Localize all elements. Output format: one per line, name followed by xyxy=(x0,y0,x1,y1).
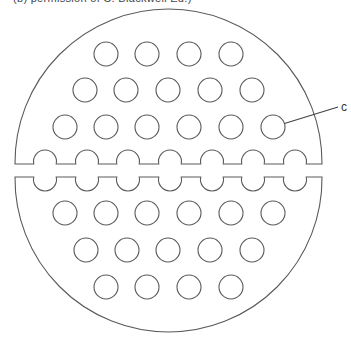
plate-upper-half xyxy=(15,9,322,164)
plate-hole xyxy=(177,42,201,66)
plate-hole xyxy=(177,201,201,225)
plate-hole xyxy=(94,201,118,225)
plate-hole xyxy=(73,78,97,102)
plate-hole xyxy=(156,78,180,102)
plate-hole xyxy=(261,201,285,225)
plate-hole xyxy=(198,78,222,102)
plate-hole xyxy=(53,115,77,139)
plate-lower-half xyxy=(15,177,322,332)
plate-hole xyxy=(135,42,159,66)
plate-hole xyxy=(198,238,222,262)
plate-hole xyxy=(135,115,159,139)
callout-leader-line xyxy=(284,107,338,123)
callout-label-c: c xyxy=(341,100,347,114)
plate-hole xyxy=(94,275,118,299)
plate-hole xyxy=(114,78,138,102)
plate-hole xyxy=(74,238,98,262)
plate-hole xyxy=(94,115,118,139)
perforated-plate-diagram: c xyxy=(0,0,351,341)
plate-hole xyxy=(240,238,264,262)
plate-hole xyxy=(261,115,285,139)
plate-hole xyxy=(219,115,243,139)
plate-hole xyxy=(219,201,243,225)
plate-hole xyxy=(135,201,159,225)
plate-hole xyxy=(219,275,243,299)
plate-hole xyxy=(240,78,264,102)
plate-hole xyxy=(135,275,159,299)
plate-hole xyxy=(177,115,201,139)
plate-hole xyxy=(53,201,77,225)
plate-hole xyxy=(219,42,243,66)
plate-hole xyxy=(94,42,118,66)
plate-hole xyxy=(177,275,201,299)
plate-hole xyxy=(156,238,180,262)
plate-hole xyxy=(115,238,139,262)
